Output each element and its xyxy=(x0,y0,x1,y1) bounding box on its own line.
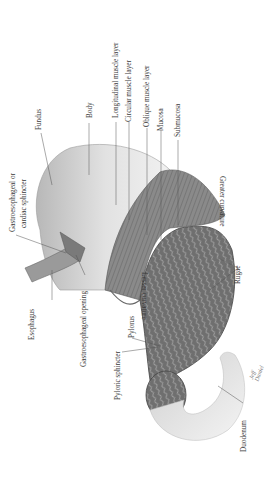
label-greater-curvature: Greater curvature xyxy=(218,176,226,226)
label-pyloric-sphincter: Pyloric sphincter xyxy=(114,351,122,400)
mucosa-rugae xyxy=(140,226,235,388)
label-oblique-muscle-layer: Oblique muscle layer xyxy=(143,66,151,127)
label-esophagus: Esophagus xyxy=(28,309,36,340)
label-duodenum: Duodenum xyxy=(240,420,248,452)
label-rugae: Rugae xyxy=(234,266,242,284)
label-body: Body xyxy=(86,102,94,118)
label-longitudinal-muscle-layer: Longitudinal muscle layer xyxy=(112,43,120,118)
label-fundus: Fundus xyxy=(35,109,43,130)
label-mucosa: Mucosa xyxy=(157,108,165,131)
label-gastroesophageal-opening: Gastroesophageal opening xyxy=(80,291,88,367)
label-submucosa: Submucosa xyxy=(174,104,182,137)
stomach-diagram: Fundus Body Longitudinal muscle layer Ci… xyxy=(0,0,272,496)
label-circular-muscle-layer: Circular muscle layer xyxy=(125,60,133,122)
label-gastroesophageal-sphincter-line1: Gastroesophageal or xyxy=(9,173,17,232)
label-lesser-curvature: Lesser curvature xyxy=(140,272,148,320)
label-gastroesophageal-sphincter-line2: cardiac sphincter xyxy=(20,179,28,228)
stomach-illustration xyxy=(0,0,272,496)
label-pylorus: Pylorus xyxy=(128,316,136,338)
